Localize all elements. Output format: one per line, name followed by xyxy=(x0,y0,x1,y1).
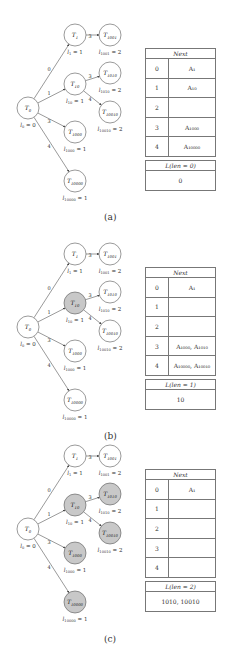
next-value xyxy=(169,499,216,519)
next-value: A₁ xyxy=(169,59,216,79)
next-value: A₁₀₀₀₀, A₁₀₀₁₀ xyxy=(169,356,216,376)
next-table: Next 0A₁ 1 2 3A₁₀₀₀, A₁₀₁₀ 4A₁₀₀₀₀, A₁₀₀… xyxy=(145,267,216,376)
next-index: 1 xyxy=(146,499,169,519)
l-table: L(len = 2) 1010, 10010 xyxy=(145,581,216,612)
next-value: A₁₀ xyxy=(169,78,216,98)
l-table-value: 10 xyxy=(146,390,216,410)
l-table-value: 0 xyxy=(146,171,216,191)
next-table: Next 0A₁ 1 2 3 4 xyxy=(145,469,216,578)
next-index: 3 xyxy=(146,336,169,356)
next-table: Next 0A₁ 1A₁₀ 2 3A₁₀₀₀ 4A₁₀₀₀₀ xyxy=(145,48,216,157)
next-table-title: Next xyxy=(146,49,216,59)
next-value xyxy=(169,558,216,578)
next-index: 0 xyxy=(146,278,169,298)
next-index: 1 xyxy=(146,78,169,98)
next-index: 4 xyxy=(146,137,169,157)
next-value: A₁ xyxy=(169,278,216,298)
next-index: 4 xyxy=(146,558,169,578)
next-value: A₁₀₀₀, A₁₀₁₀ xyxy=(169,336,216,356)
l-table: L(len = 1) 10 xyxy=(145,379,216,410)
next-table-title: Next xyxy=(146,470,216,480)
next-value xyxy=(169,297,216,317)
l-table-title: L(len = 0) xyxy=(146,161,216,171)
next-index: 2 xyxy=(146,317,169,337)
l-table-title: L(len = 1) xyxy=(146,380,216,390)
caption: (c) xyxy=(104,634,116,644)
next-index: 4 xyxy=(146,356,169,376)
panel-b: Next 0A₁ 1 2 3A₁₀₀₀, A₁₀₁₀ 4A₁₀₀₀₀, A₁₀₀… xyxy=(0,219,227,439)
l-table: L(len = 0) 0 xyxy=(145,160,216,191)
next-index: 3 xyxy=(146,538,169,558)
next-value: A₁₀₀₀₀ xyxy=(169,137,216,157)
next-value xyxy=(169,538,216,558)
next-value: A₁₀₀₀ xyxy=(169,117,216,137)
next-value xyxy=(169,317,216,337)
panel-c: Next 0A₁ 1 2 3 4 L(len = 2) 1010, 10010 … xyxy=(0,421,227,641)
next-index: 1 xyxy=(146,297,169,317)
panel-a: Next 0A₁ 1A₁₀ 2 3A₁₀₀₀ 4A₁₀₀₀₀ L(len = 0… xyxy=(0,0,227,220)
next-value: A₁ xyxy=(169,480,216,500)
next-index: 0 xyxy=(146,480,169,500)
next-table-title: Next xyxy=(146,268,216,278)
next-index: 3 xyxy=(146,117,169,137)
l-table-title: L(len = 2) xyxy=(146,582,216,592)
l-table-value: 1010, 10010 xyxy=(146,592,216,612)
next-value xyxy=(169,519,216,539)
next-index: 2 xyxy=(146,98,169,118)
next-index: 2 xyxy=(146,519,169,539)
next-value xyxy=(169,98,216,118)
next-index: 0 xyxy=(146,59,169,79)
